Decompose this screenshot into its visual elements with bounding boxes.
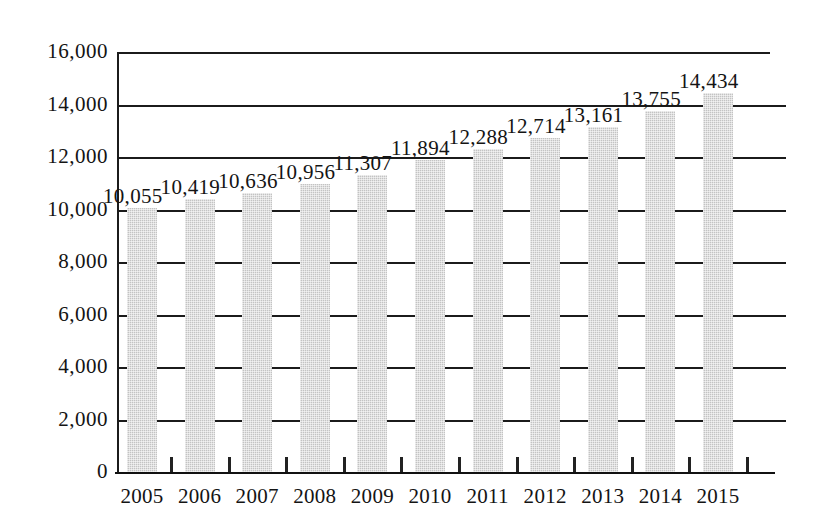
x-axis-label: 2010 <box>400 484 460 508</box>
bar[interactable] <box>242 193 272 472</box>
bar-value-label: 10,956 <box>276 162 336 183</box>
gridline-stub <box>770 262 786 264</box>
x-axis-label: 2008 <box>285 484 345 508</box>
category-tick <box>228 457 231 472</box>
x-axis-label: 2007 <box>227 484 287 508</box>
x-axis-label: 2012 <box>515 484 575 508</box>
category-tick <box>688 457 691 472</box>
x-axis-line <box>115 472 775 474</box>
y-axis-label: 12,000 <box>0 146 108 167</box>
bar[interactable] <box>185 199 215 472</box>
y-axis-label: 8,000 <box>0 251 108 272</box>
gridline-stub <box>770 157 786 159</box>
x-axis-tick-labels: 2005200620072008200920102011201220132014… <box>117 484 797 518</box>
bar-chart: 16,00014,00012,00010,0008,0006,0004,0002… <box>0 0 829 532</box>
bar[interactable] <box>588 127 618 472</box>
gridline-stub <box>770 210 786 212</box>
category-tick <box>746 457 749 472</box>
category-tick <box>458 457 461 472</box>
bar-value-label: 10,636 <box>218 171 278 192</box>
gridline-stub <box>770 105 786 107</box>
bar-value-label: 10,055 <box>103 186 163 207</box>
category-tick <box>516 457 519 472</box>
y-axis-label: 10,000 <box>0 199 108 220</box>
bar[interactable] <box>530 138 560 472</box>
bar-value-label: 10,419 <box>161 177 221 198</box>
y-axis-label: 0 <box>0 461 108 482</box>
x-axis-label: 2011 <box>458 484 518 508</box>
bar-value-label: 14,434 <box>679 71 739 92</box>
bar[interactable] <box>415 160 445 472</box>
bar-value-label: 12,288 <box>449 127 509 148</box>
category-tick <box>573 457 576 472</box>
gridline-stub <box>770 367 786 369</box>
bar[interactable] <box>473 149 503 472</box>
bar-value-label: 13,755 <box>621 89 681 110</box>
bar[interactable] <box>357 175 387 472</box>
bar[interactable] <box>300 184 330 472</box>
x-axis-label: 2014 <box>630 484 690 508</box>
gridline-stub <box>770 420 786 422</box>
gridline-stub <box>770 315 786 317</box>
plot-area: 10,05510,41910,63610,95611,30711,89412,2… <box>117 52 770 472</box>
y-axis-label: 4,000 <box>0 356 108 377</box>
category-tick <box>400 457 403 472</box>
bar[interactable] <box>703 93 733 472</box>
y-axis-label: 6,000 <box>0 304 108 325</box>
category-tick <box>170 457 173 472</box>
y-axis-label: 2,000 <box>0 409 108 430</box>
category-tick <box>343 457 346 472</box>
x-axis-label: 2009 <box>342 484 402 508</box>
x-axis-label: 2006 <box>170 484 230 508</box>
x-axis-label: 2015 <box>688 484 748 508</box>
y-axis-tick-labels: 16,00014,00012,00010,0008,0006,0004,0002… <box>0 0 108 532</box>
bar[interactable] <box>645 111 675 472</box>
y-axis-label: 16,000 <box>0 41 108 62</box>
bar-value-label: 11,894 <box>391 138 450 159</box>
category-tick <box>285 457 288 472</box>
bar-value-label: 12,714 <box>506 116 566 137</box>
bar[interactable] <box>127 208 157 472</box>
bar-value-label: 11,307 <box>333 153 392 174</box>
y-axis-label: 14,000 <box>0 94 108 115</box>
category-tick <box>631 457 634 472</box>
gridline <box>117 52 770 54</box>
x-axis-label: 2013 <box>573 484 633 508</box>
bar-value-label: 13,161 <box>564 105 624 126</box>
x-axis-label: 2005 <box>112 484 172 508</box>
